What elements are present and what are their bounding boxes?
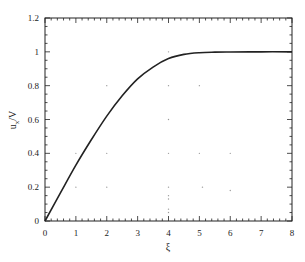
y-tick-label: 0.8 xyxy=(28,81,40,91)
x-tick-label: 3 xyxy=(135,228,140,238)
x-tick-label: 6 xyxy=(228,228,233,238)
chart: 01234567800.20.40.60.811.2 ξ ux/V xyxy=(0,0,305,262)
tick-labels: 01234567800.20.40.60.811.2 xyxy=(28,13,295,238)
y-tick-label: 0.4 xyxy=(28,148,40,158)
x-tick-label: 5 xyxy=(197,228,202,238)
y-tick-label: 0.2 xyxy=(28,182,39,192)
x-tick-label: 1 xyxy=(74,228,79,238)
x-axis-label: ξ xyxy=(166,241,171,253)
y-tick-label: 1.2 xyxy=(28,13,39,23)
y-tick-label: 0.6 xyxy=(28,115,40,125)
x-tick-label: 4 xyxy=(166,228,171,238)
x-tick-label: 2 xyxy=(105,228,110,238)
y-tick-label: 1 xyxy=(35,47,40,57)
svg-text:ux/V: ux/V xyxy=(7,110,21,129)
y-axis-label: ux/V xyxy=(7,110,21,129)
x-tick-label: 7 xyxy=(259,228,264,238)
y-tick-label: 0 xyxy=(35,216,40,226)
x-tick-label: 0 xyxy=(43,228,48,238)
x-tick-label: 8 xyxy=(290,228,295,238)
stray-dots xyxy=(75,51,231,213)
